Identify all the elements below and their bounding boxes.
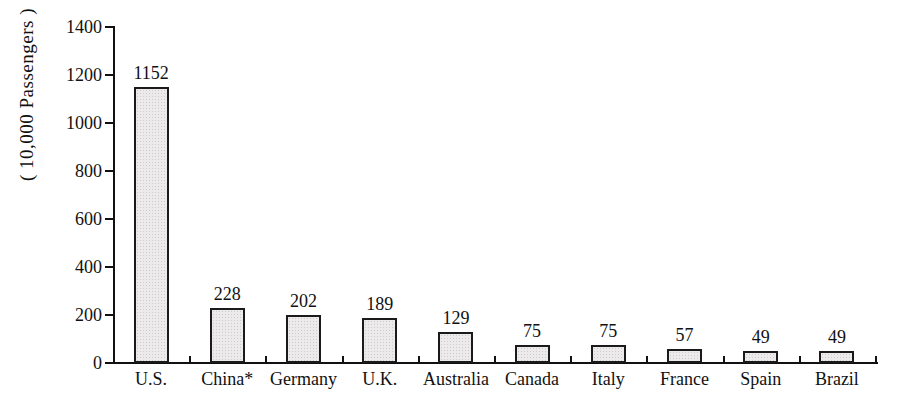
bar-value-label: 202 [269,292,339,310]
bar-value-label: 49 [726,328,796,346]
bar-value-label: 129 [421,309,491,327]
category-label: Brazil [789,369,885,391]
bar-germany [286,315,321,363]
bar-u-s [134,87,169,363]
bar-chart: ( 10,000 Passengers ) 020040060080010001… [0,0,900,412]
bar-australia [438,332,473,363]
y-axis-tick-label: 400 [0,258,102,276]
bars-container: 11522282021891297575574949 [113,27,877,363]
bar-spain [743,351,778,363]
x-axis-category-labels: U.S.China*GermanyU.K.AustraliaCanadaItal… [0,369,900,399]
bar-brazil [819,351,854,363]
y-axis-tick-label: 1400 [0,18,102,36]
bar-value-label: 189 [345,295,415,313]
bar-u-k [362,318,397,363]
y-axis-tick-label: 1000 [0,114,102,132]
bar-canada [515,345,550,363]
bar-value-label: 228 [192,285,262,303]
y-axis-tick-label: 200 [0,306,102,324]
y-axis-tick-label: 600 [0,210,102,228]
bar-value-label: 75 [497,322,567,340]
y-axis-tick-label: 1200 [0,66,102,84]
bar-italy [591,345,626,363]
bar-france [667,349,702,363]
bar-value-label: 49 [802,328,872,346]
bar-value-label: 75 [573,322,643,340]
bar-value-label: 1152 [116,64,186,82]
bar-china [210,308,245,363]
bar-value-label: 57 [650,326,720,344]
y-axis-tick-label: 800 [0,162,102,180]
y-axis-tick-labels: 0200400600800100012001400 [0,0,102,412]
